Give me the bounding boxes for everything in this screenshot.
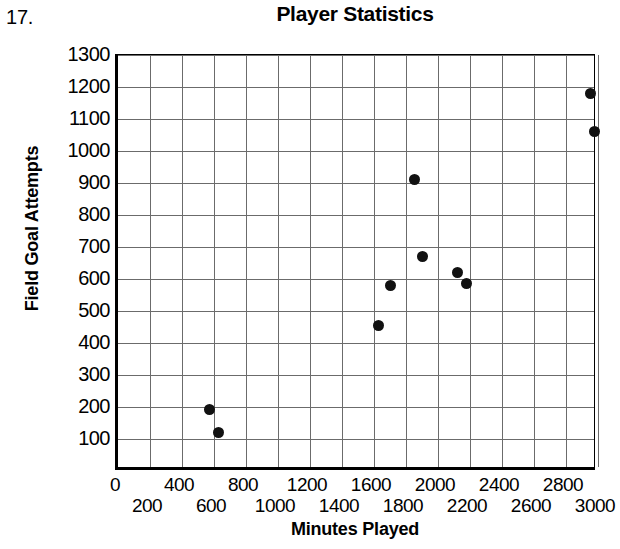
data-point [385,280,396,291]
x-tick-label: 2200 [432,495,502,516]
x-tick-label: 2400 [464,474,534,495]
data-point [417,251,428,262]
gridline-vertical [598,55,599,467]
data-point [409,174,420,185]
data-points-layer [118,55,594,467]
data-point [585,88,596,99]
x-tick-label: 3000 [560,495,620,516]
x-tick-label: 2800 [528,474,598,495]
x-axis-tick-labels: 0200400600800100012001400160018002000220… [0,470,614,516]
y-tick-label: 700 [48,236,110,256]
x-tick-label: 1000 [240,495,310,516]
chart-title: Player Statistics [115,2,595,26]
data-point [373,320,384,331]
x-tick-label: 800 [208,474,278,495]
y-tick-label: 200 [48,396,110,416]
x-tick-label: 1800 [368,495,438,516]
x-tick-label: 0 [80,474,150,495]
y-tick-label: 500 [48,300,110,320]
y-tick-label: 800 [48,204,110,224]
data-point [452,267,463,278]
x-tick-label: 200 [112,495,182,516]
x-tick-label: 2000 [400,474,470,495]
data-point [213,427,224,438]
y-tick-label: 900 [48,172,110,192]
y-tick-label: 100 [48,428,110,448]
y-tick-label: 300 [48,364,110,384]
y-axis-tick-labels: 1002003004005006007008009001000110012001… [38,54,110,470]
data-point [204,404,215,415]
y-tick-label: 1300 [48,44,110,64]
y-axis-title: Field Goal Attempts [22,99,43,359]
y-tick-label: 600 [48,268,110,288]
y-tick-label: 1100 [48,108,110,128]
x-tick-label: 1600 [336,474,406,495]
x-tick-label: 1200 [272,474,342,495]
plot-area [115,54,595,470]
data-point [461,278,472,289]
problem-number: 17. [6,6,33,29]
y-tick-label: 1200 [48,76,110,96]
x-tick-label: 600 [176,495,246,516]
x-tick-label: 2600 [496,495,566,516]
x-tick-label: 1400 [304,495,374,516]
x-axis-title: Minutes Played [115,519,595,540]
y-tick-label: 1000 [48,140,110,160]
y-tick-label: 400 [48,332,110,352]
x-tick-label: 400 [144,474,214,495]
